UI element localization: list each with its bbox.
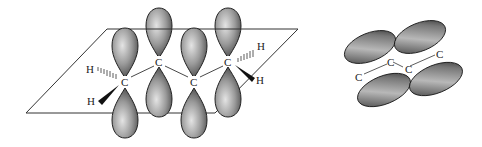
upper-lobe-c3 — [181, 28, 207, 78]
right-carbon-1-label: C — [355, 71, 362, 83]
wedge-bond-c4-h — [235, 65, 255, 82]
right-carbon-2-label: C — [387, 56, 394, 68]
upper-lobe-c1 — [112, 28, 138, 78]
hydrogen-3-label: H — [257, 40, 265, 52]
pi-lobe-lower-right — [405, 56, 467, 103]
hashed-bond-c1-h — [98, 67, 116, 79]
carbon-4-label: C — [224, 56, 231, 68]
lower-lobe-c4 — [215, 67, 241, 117]
hydrogen-1-label: H — [86, 63, 94, 75]
butadiene-orbital-diagram: C C C C H H H H C C C C — [0, 0, 482, 147]
right-carbon-4-label: C — [436, 48, 443, 60]
bond-r-c2-c3 — [393, 62, 403, 67]
wedge-bond-c1-h — [98, 85, 119, 105]
hydrogen-2-label: H — [87, 95, 95, 107]
carbon-2-label: C — [155, 56, 162, 68]
lower-lobe-c3 — [181, 88, 207, 138]
lower-lobe-c1 — [112, 88, 138, 138]
carbon-3-label: C — [190, 76, 197, 88]
left-figure: C C C C H H H H — [26, 8, 298, 138]
carbon-1-label: C — [121, 76, 128, 88]
upper-lobe-c4 — [215, 8, 241, 58]
bond-c3-c4 — [200, 66, 223, 77]
bond-c2-c3 — [165, 66, 188, 77]
lower-lobe-c2 — [146, 67, 172, 117]
right-carbon-3-label: C — [405, 63, 412, 75]
bond-c1-c2 — [131, 66, 154, 77]
right-figure: C C C C — [340, 14, 467, 114]
bond-r-c3-c4 — [410, 55, 435, 66]
hydrogen-4-label: H — [256, 74, 264, 86]
hashed-bond-c4-h — [238, 50, 253, 62]
bond-r-c1-c2 — [364, 64, 387, 74]
upper-lobe-c2 — [146, 8, 172, 58]
